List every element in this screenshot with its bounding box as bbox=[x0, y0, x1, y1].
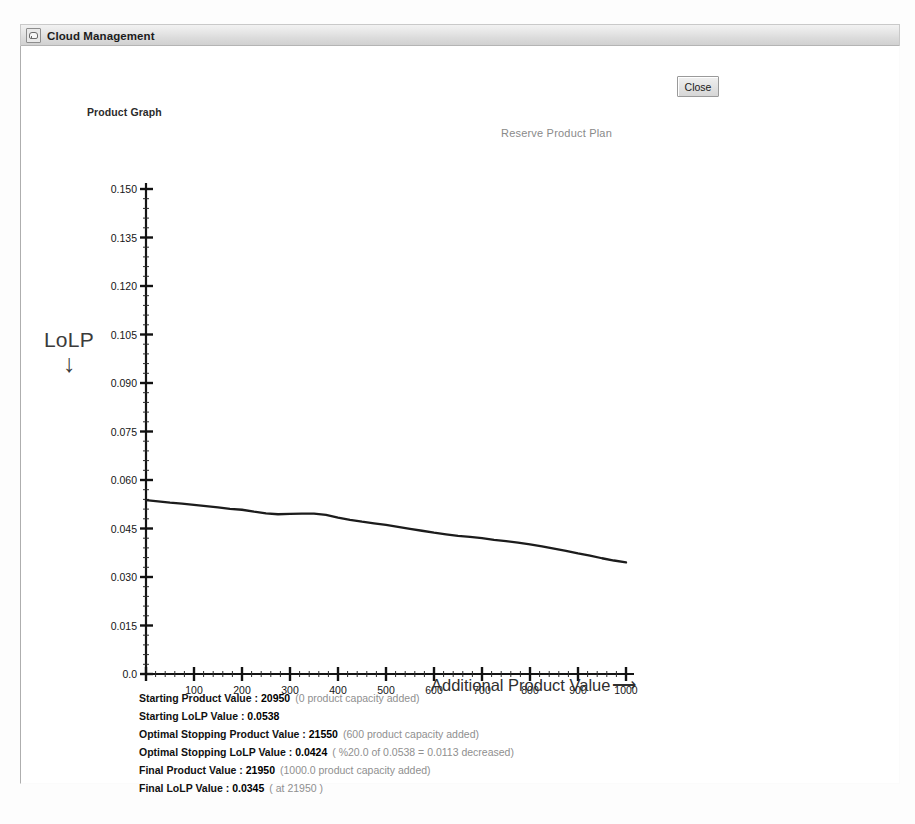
summary-stat-note: (1000.0 product capacity added) bbox=[280, 764, 431, 776]
summary-stat-note: (600 product capacity added) bbox=[343, 728, 479, 740]
summary-stat-label: Starting LoLP Value : bbox=[139, 710, 244, 722]
chart-plot-area: 0.00.0150.0300.0450.0600.0750.0900.1050.… bbox=[21, 46, 901, 784]
summary-stat-value: 0.0424 bbox=[292, 746, 327, 758]
y-tick-label: 0.150 bbox=[111, 183, 137, 195]
summary-stat-label: Final LoLP Value : bbox=[139, 782, 229, 794]
summary-stats-list: Starting Product Value : 20950(0 product… bbox=[139, 691, 514, 796]
summary-stat-note: ( at 21950 ) bbox=[269, 782, 323, 794]
summary-stat-label: Optimal Stopping LoLP Value : bbox=[139, 746, 292, 758]
y-tick-label: 0.0 bbox=[122, 668, 137, 680]
y-tick-label: 0.015 bbox=[111, 620, 137, 632]
summary-stat-note: (0 product capacity added) bbox=[295, 692, 419, 704]
y-tick-label: 0.120 bbox=[111, 280, 137, 292]
y-axis-label: LoLP bbox=[44, 328, 94, 351]
summary-stat-row: Starting Product Value : 20950(0 product… bbox=[139, 691, 514, 706]
chart-svg: 0.00.0150.0300.0450.0600.0750.0900.1050.… bbox=[21, 46, 901, 784]
y-tick-label: 0.030 bbox=[111, 571, 137, 583]
summary-stat-value: 0.0345 bbox=[229, 782, 264, 794]
summary-stat-row: Optimal Stopping LoLP Value : 0.0424( %2… bbox=[139, 745, 514, 760]
summary-stat-value: 0.0538 bbox=[244, 710, 279, 722]
x-axis-arrow-icon: ⟶ bbox=[612, 675, 634, 696]
window-title-bar: Cloud Management bbox=[20, 24, 900, 46]
y-axis: 0.00.0150.0300.0450.0600.0750.0900.1050.… bbox=[111, 183, 153, 680]
y-tick-label: 0.045 bbox=[111, 523, 137, 535]
close-button[interactable]: Close bbox=[677, 76, 719, 97]
y-tick-label: 0.090 bbox=[111, 377, 137, 389]
y-tick-label: 0.060 bbox=[111, 474, 137, 486]
y-tick-label: 0.135 bbox=[111, 232, 137, 244]
summary-stat-row: Final Product Value : 21950(1000.0 produ… bbox=[139, 763, 514, 778]
summary-stat-row: Optimal Stopping Product Value : 21550(6… bbox=[139, 727, 514, 742]
summary-stat-row: Starting LoLP Value : 0.0538 bbox=[139, 709, 514, 724]
application-window: Cloud Management Close Product Graph Res… bbox=[20, 24, 900, 784]
data-series-lolp bbox=[146, 500, 626, 562]
summary-stat-value: 21950 bbox=[243, 764, 275, 776]
summary-stat-row: Final LoLP Value : 0.0345( at 21950 ) bbox=[139, 781, 514, 796]
summary-stat-label: Optimal Stopping Product Value : bbox=[139, 728, 306, 740]
y-axis-caption: LoLP ↓ bbox=[34, 329, 104, 373]
summary-stat-value: 21550 bbox=[306, 728, 338, 740]
summary-stat-note: ( %20.0 of 0.0538 = 0.0113 decreased) bbox=[332, 746, 514, 758]
y-tick-label: 0.105 bbox=[111, 329, 137, 341]
summary-stat-label: Starting Product Value : bbox=[139, 692, 258, 704]
y-axis-arrow-icon: ↓ bbox=[34, 353, 104, 373]
product-graph-label: Product Graph bbox=[87, 106, 162, 118]
window-client-area: Close Product Graph Reserve Product Plan… bbox=[20, 46, 900, 784]
summary-stat-value: 20950 bbox=[258, 692, 290, 704]
summary-stat-label: Final Product Value : bbox=[139, 764, 243, 776]
window-title: Cloud Management bbox=[47, 30, 155, 42]
chart-title: Reserve Product Plan bbox=[501, 127, 612, 139]
app-window-icon bbox=[26, 28, 41, 43]
lolp-line-series bbox=[146, 500, 626, 562]
y-tick-label: 0.075 bbox=[111, 426, 137, 438]
